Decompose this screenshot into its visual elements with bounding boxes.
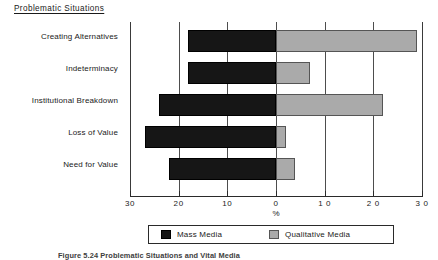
- category-label: Indeterminacy: [0, 64, 118, 73]
- legend-label: Qualitative Media: [285, 230, 350, 239]
- axis-tick: [227, 191, 228, 197]
- axis-tick: [325, 191, 326, 197]
- bar-qualitative-media: [276, 126, 286, 148]
- figure-caption: Figure 5.24 Problematic Situations and V…: [58, 251, 388, 260]
- axis-tick-label: 0: [261, 199, 291, 208]
- bar-qualitative-media: [276, 158, 295, 180]
- bar-mass-media: [159, 94, 276, 116]
- axis-tick-label: 10: [212, 199, 242, 208]
- axis-tick: [130, 191, 131, 197]
- bar-mass-media: [188, 62, 276, 84]
- gridline: [130, 22, 131, 194]
- axis-tick-label: 1 0: [310, 199, 340, 208]
- bar-mass-media: [169, 158, 276, 180]
- category-label: Need for Value: [0, 160, 118, 169]
- bar-mass-media: [145, 126, 276, 148]
- category-label: Institutional Breakdown: [0, 96, 118, 105]
- legend-entry-qualitative-media: Qualitative Media: [269, 230, 350, 239]
- category-label: Creating Alternatives: [0, 32, 118, 41]
- chart-legend: Mass Media Qualitative Media: [148, 225, 394, 244]
- bar-mass-media: [188, 30, 276, 52]
- axis-tick: [373, 191, 374, 197]
- legend-entry-mass-media: Mass Media: [161, 230, 222, 239]
- category-label: Loss of Value: [0, 128, 118, 137]
- figure-container: Problematic Situations Creating Alternat…: [0, 0, 438, 260]
- x-axis-label: %: [130, 209, 422, 218]
- page-title: Problematic Situations: [14, 4, 104, 13]
- legend-swatch-icon: [161, 230, 171, 239]
- axis-tick-label: 3 0: [407, 199, 437, 208]
- legend-label: Mass Media: [177, 230, 222, 239]
- category-label-column: Creating Alternatives Indeterminacy Inst…: [0, 24, 122, 192]
- gridline: [422, 22, 423, 194]
- axis-tick-label: 20: [164, 199, 194, 208]
- axis-tick: [179, 191, 180, 197]
- bar-qualitative-media: [276, 30, 417, 52]
- axis-tick-label: 30: [115, 199, 145, 208]
- bar-qualitative-media: [276, 62, 310, 84]
- axis-tick: [276, 191, 277, 197]
- bar-qualitative-media: [276, 94, 383, 116]
- axis-tick: [422, 191, 423, 197]
- axis-tick-label: 2 0: [358, 199, 388, 208]
- legend-swatch-icon: [269, 230, 279, 239]
- plot-area: [130, 22, 422, 194]
